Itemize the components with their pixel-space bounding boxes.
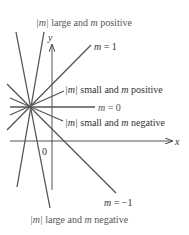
label-large-negative: |m| large and m negative <box>30 214 129 225</box>
x-axis-label: x <box>174 136 180 147</box>
label-m-equals-1: m = 1 <box>94 41 117 52</box>
label-small-positive: |m| small and m positive <box>65 84 163 95</box>
line-small-negative <box>10 98 63 121</box>
label-m-equals-0: m = 0 <box>98 102 121 113</box>
label-large-positive: |m| large and m positive <box>36 17 132 28</box>
slope-diagram: y x 0 |m| large and m positive m = 1 |m|… <box>0 0 189 235</box>
label-small-negative: |m| small and m negative <box>65 117 166 128</box>
y-axis-label: y <box>47 32 53 43</box>
line-large-negative <box>16 32 50 208</box>
line-m-equals-minus-1 <box>7 84 116 193</box>
label-m-equals-minus-1: m = −1 <box>104 197 133 208</box>
origin-label: 0 <box>42 146 47 157</box>
